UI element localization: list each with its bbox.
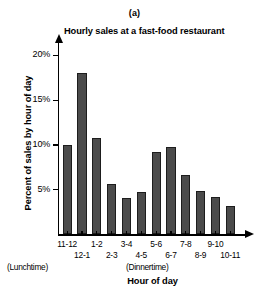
x-axis-tick-label: 2-3: [97, 250, 127, 260]
bar: [181, 175, 190, 234]
x-axis-tick: [185, 231, 186, 235]
bar: [92, 138, 101, 235]
bar: [211, 197, 220, 235]
y-axis-tick-label: 5%: [37, 184, 50, 194]
x-axis-tick: [230, 231, 231, 235]
x-axis-tick: [126, 231, 127, 235]
y-axis-tick-label: 20%: [33, 49, 50, 59]
y-axis-tick: [53, 100, 59, 101]
bar-chart-figure: (a) Hourly sales at a fast-food restaura…: [0, 0, 269, 300]
x-axis-tick: [170, 231, 171, 235]
x-axis-tick: [67, 231, 68, 235]
lunchtime-annotation: (Lunchtime): [7, 262, 48, 272]
x-axis-tick-label: 5-6: [141, 239, 171, 249]
chart-title: Hourly sales at a fast-food restaurant: [64, 26, 225, 36]
bar: [196, 191, 205, 235]
bar: [137, 192, 146, 235]
x-axis-tick-label: 10-11: [215, 250, 245, 260]
y-axis-line: [58, 42, 59, 235]
x-axis-tick: [215, 231, 216, 235]
x-axis-title: Hour of day: [58, 276, 247, 286]
x-axis-tick: [111, 231, 112, 235]
x-axis-tick-label: 6-7: [156, 250, 186, 260]
x-axis-arrowhead: [245, 230, 254, 238]
x-axis-tick: [96, 231, 97, 235]
x-axis-tick: [200, 231, 201, 235]
y-axis-tick: [53, 55, 59, 56]
y-axis-tick-label: 10%: [33, 139, 50, 149]
x-axis-tick-label: 3-4: [111, 239, 141, 249]
x-axis-tick: [141, 231, 142, 235]
x-axis-tick: [81, 231, 82, 235]
x-axis-tick-label: 9-10: [200, 239, 230, 249]
x-axis-tick-label: 12-1: [67, 250, 97, 260]
panel-label: (a): [0, 8, 269, 18]
y-axis-arrowhead: [55, 34, 63, 43]
y-axis-tick-label: 15%: [33, 94, 50, 104]
bar: [63, 145, 72, 235]
x-axis-tick-label: 11-12: [52, 239, 82, 249]
bar: [152, 152, 161, 234]
dinnertime-annotation: (Dinnertime): [126, 262, 168, 272]
x-axis-tick-label: 1-2: [82, 239, 112, 249]
bar: [107, 184, 116, 234]
bar: [77, 73, 86, 234]
x-axis-tick-label: 8-9: [186, 250, 216, 260]
y-axis-tick: [53, 144, 59, 145]
y-axis-title: Percent of sales by hour of day: [23, 48, 33, 238]
x-axis-tick: [156, 231, 157, 235]
bar: [166, 147, 175, 235]
x-axis-tick-label: 4-5: [126, 250, 156, 260]
bar: [122, 198, 131, 235]
x-axis-tick-label: 7-8: [171, 239, 201, 249]
y-axis-tick: [53, 189, 59, 190]
